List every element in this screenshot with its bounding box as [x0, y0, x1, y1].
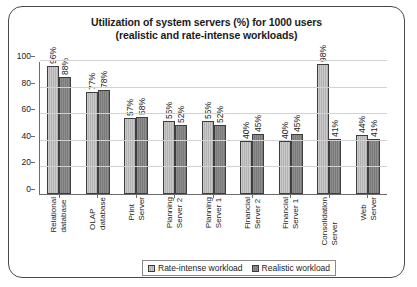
bar: 40%: [240, 141, 252, 194]
bar-value-label: 40%: [241, 122, 251, 139]
x-axis-label-0: Relationaldatabase: [39, 197, 78, 257]
bar-group: 98%41%: [310, 62, 349, 194]
bar: 58%: [136, 117, 148, 194]
y-tick-mark: [31, 109, 35, 110]
chart-title-line1: Utilization of system servers (%) for 10…: [91, 16, 322, 28]
y-tick-mark: [31, 189, 35, 190]
legend-swatch-icon-1: [252, 265, 259, 272]
bar-group: 55%52%: [156, 62, 195, 194]
bar: 96%: [47, 66, 59, 194]
gridline: [40, 87, 387, 88]
y-tick-label: 40: [22, 131, 31, 141]
x-axis-label-text: PlanningServer 1: [204, 197, 223, 228]
bar-value-label: 55%: [164, 102, 174, 119]
x-axis-label-5: FinancialServer 2: [232, 197, 271, 257]
bar-value-label: 44%: [357, 116, 367, 133]
bar-value-label: 41%: [330, 120, 340, 137]
bar-group: 57%58%: [117, 62, 156, 194]
legend-label-1: Realistic workload: [262, 263, 331, 273]
y-tick-mark: [31, 83, 35, 84]
bar-group: 44%41%: [349, 62, 388, 194]
y-axis: 020406080100: [9, 56, 35, 196]
y-tick-label: 20: [22, 157, 31, 167]
bar-group: 96%88%: [40, 62, 79, 194]
bar: 52%: [175, 125, 187, 194]
x-axis-label-text: WebServer: [358, 197, 377, 221]
x-axis-label-text: FinancialServer 2: [242, 197, 261, 229]
bar-value-label: 55%: [203, 102, 213, 119]
bar-group: 40%45%: [271, 62, 310, 194]
legend-label-0: Rate-intense workload: [158, 263, 243, 273]
y-tick-mark: [31, 56, 35, 57]
bar: 78%: [98, 90, 110, 194]
bar-group: 55%52%: [194, 62, 233, 194]
bar: 88%: [59, 77, 71, 194]
bar: 52%: [214, 125, 226, 194]
y-tick-mark: [31, 162, 35, 163]
y-tick-label: 100: [17, 51, 31, 61]
bar: 55%: [163, 121, 175, 194]
bar: 45%: [291, 134, 303, 194]
bar: 57%: [124, 118, 136, 194]
x-axis-label-text: Relationaldatabase: [49, 197, 68, 233]
chart-title-line2: (realistic and rate-intense workloads): [9, 29, 404, 42]
x-axis-label-text: PrintServer: [126, 197, 145, 221]
x-axis-label-2: PrintServer: [116, 197, 155, 257]
x-axis-label-6: FinancialServer 1: [271, 197, 310, 257]
chart-title: Utilization of system servers (%) for 10…: [9, 16, 404, 41]
chart-frame: Utilization of system servers (%) for 10…: [8, 6, 405, 278]
bar-value-label: 52%: [176, 106, 186, 123]
gridline: [40, 140, 387, 141]
x-axis-label-text: OLAPdatabase: [88, 197, 107, 230]
chart-legend: Rate-intense workload Realistic workload: [142, 260, 336, 276]
x-axis-labels: RelationaldatabaseOLAPdatabasePrintServe…: [39, 197, 387, 257]
bar-value-label: 96%: [48, 47, 58, 64]
bar: 55%: [202, 121, 214, 194]
legend-swatch-icon-0: [148, 265, 155, 272]
x-axis-label-3: PlanningServer 2: [155, 197, 194, 257]
bar-value-label: 52%: [215, 106, 225, 123]
bar-groups: 96%88%77%78%57%58%55%52%55%52%40%45%40%4…: [40, 62, 387, 194]
bar-value-label: 45%: [292, 115, 302, 132]
gridline: [40, 166, 387, 167]
x-axis-label-4: PlanningServer 1: [194, 197, 233, 257]
y-tick-label: 80: [22, 78, 31, 88]
legend-entry-1: Realistic workload: [252, 263, 331, 273]
bar-group: 77%78%: [79, 62, 118, 194]
y-tick-label: 60: [22, 104, 31, 114]
bar-group: 40%45%: [233, 62, 272, 194]
bar-value-label: 41%: [369, 120, 379, 137]
legend-entry-0: Rate-intense workload: [148, 263, 243, 273]
bar-value-label: 40%: [280, 122, 290, 139]
x-axis-label-text: PlanningServer 2: [165, 197, 184, 228]
plot-area: 96%88%77%78%57%58%55%52%55%52%40%45%40%4…: [39, 62, 387, 195]
x-axis-label-text: FinancialServer 1: [281, 197, 300, 229]
bar: 98%: [317, 64, 329, 194]
y-tick-mark: [31, 136, 35, 137]
bar-value-label: 45%: [253, 115, 263, 132]
bar: 45%: [252, 134, 264, 194]
gridline: [40, 60, 387, 61]
x-axis-label-1: OLAPdatabase: [78, 197, 117, 257]
bar: 40%: [279, 141, 291, 194]
bar: 44%: [356, 135, 368, 194]
x-axis-label-7: ConsolidationServer: [310, 197, 349, 257]
bar: 77%: [86, 92, 98, 194]
x-axis-label-text: ConsolidationServer: [320, 197, 339, 245]
gridline: [40, 113, 387, 114]
x-axis-label-8: WebServer: [348, 197, 387, 257]
